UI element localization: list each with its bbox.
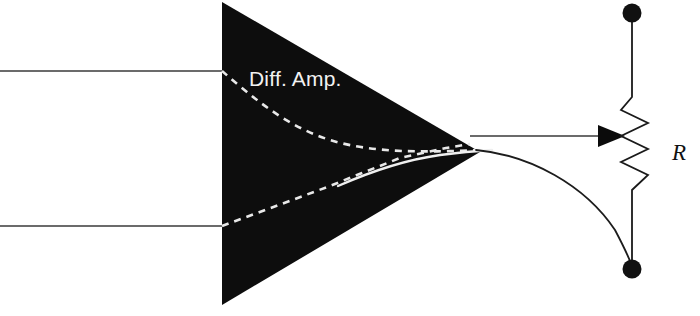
resistor-zigzag (621, 13, 648, 269)
amplifier-label: Diff. Amp. (249, 67, 342, 90)
resistor-group: R (621, 4, 686, 279)
amplifier-group: Diff. Amp. (222, 2, 492, 305)
resistor-label: R (671, 140, 686, 165)
amplifier-triangle-body (222, 2, 480, 305)
resistor-bottom-terminal-dot (623, 260, 642, 279)
resistor-top-terminal-dot (623, 4, 642, 23)
diagram-canvas: Diff. Amp. R (0, 0, 700, 316)
wiper-output-group (470, 125, 625, 147)
return-curve-wire (476, 150, 632, 266)
input-wires-group (0, 71, 223, 226)
return-curve-group (476, 150, 632, 266)
circuit-diagram: Diff. Amp. R (0, 0, 700, 316)
